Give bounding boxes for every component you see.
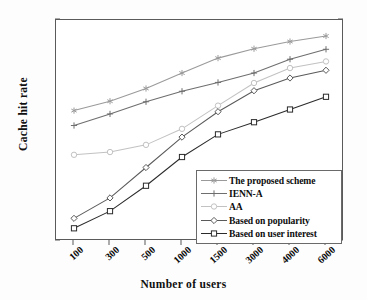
data-point-diamond bbox=[211, 217, 217, 223]
data-point-square bbox=[107, 209, 112, 214]
data-point-plus bbox=[179, 88, 185, 94]
data-point-diamond bbox=[323, 67, 329, 73]
data-point-circle bbox=[251, 80, 256, 85]
data-point-diamond bbox=[251, 88, 257, 94]
legend-label: The proposed scheme bbox=[229, 175, 315, 186]
x-axis-tick-label: 500 bbox=[139, 244, 158, 262]
data-point-plus bbox=[71, 122, 77, 128]
legend-item-3[interactable]: Based on popularity bbox=[199, 214, 338, 227]
series-1 bbox=[71, 46, 329, 128]
x-axis-tick-label: 1000 bbox=[171, 244, 193, 266]
data-point-square bbox=[211, 231, 216, 236]
data-point-circle bbox=[107, 149, 112, 154]
data-point-plus bbox=[215, 79, 221, 85]
data-point-asterisk bbox=[179, 70, 184, 76]
data-point-asterisk bbox=[143, 85, 148, 91]
data-point-circle bbox=[287, 65, 292, 70]
data-point-square bbox=[287, 107, 292, 112]
data-point-square bbox=[143, 183, 148, 188]
data-point-square bbox=[179, 154, 184, 159]
legend-item-1[interactable]: IENN-A bbox=[199, 187, 338, 200]
data-point-plus bbox=[251, 70, 257, 76]
legend-symbol-asterisk-icon bbox=[199, 174, 229, 187]
legend-item-0[interactable]: The proposed scheme bbox=[199, 174, 338, 187]
legend-item-4[interactable]: Based on user interest bbox=[199, 227, 338, 240]
x-axis-tick-label: 1500 bbox=[207, 244, 229, 266]
legend-label: IENN-A bbox=[229, 188, 263, 199]
legend-item-2[interactable]: AA bbox=[199, 200, 338, 213]
data-point-diamond bbox=[287, 75, 293, 81]
legend-label: Based on user interest bbox=[229, 228, 317, 239]
x-axis-tick-label: 100 bbox=[67, 244, 86, 262]
legend-label: Based on popularity bbox=[229, 215, 310, 226]
data-point-plus bbox=[211, 191, 217, 197]
x-axis-tick-label: 3000 bbox=[243, 244, 265, 266]
data-point-plus bbox=[107, 111, 113, 117]
legend-symbol-plus-icon bbox=[199, 187, 229, 200]
data-point-square bbox=[71, 226, 76, 231]
data-point-circle bbox=[179, 126, 184, 131]
x-axis-title: Number of users bbox=[0, 278, 367, 290]
data-point-circle bbox=[215, 103, 220, 108]
data-point-square bbox=[215, 132, 220, 137]
series-0 bbox=[71, 33, 328, 114]
y-axis-title: Cache hit rate bbox=[17, 39, 29, 189]
legend-label: AA bbox=[229, 201, 243, 212]
data-point-plus bbox=[287, 56, 293, 62]
data-point-circle bbox=[71, 152, 76, 157]
legend-symbol-circle-icon bbox=[199, 200, 229, 213]
x-axis-tick-label: 300 bbox=[103, 244, 122, 262]
legend-symbol-diamond-icon bbox=[199, 214, 229, 227]
data-point-diamond bbox=[71, 215, 77, 221]
data-point-circle bbox=[323, 59, 328, 64]
data-point-circle bbox=[211, 204, 216, 209]
data-point-plus bbox=[323, 46, 329, 52]
data-point-square bbox=[323, 94, 328, 99]
data-point-circle bbox=[143, 142, 148, 147]
chart-figure: Cache hit rate Number of users 0.60.650.… bbox=[0, 0, 367, 300]
x-axis-tick-label: 4000 bbox=[279, 244, 301, 266]
legend-symbol-square-icon bbox=[199, 227, 229, 240]
series-line bbox=[74, 36, 326, 111]
data-point-square bbox=[251, 120, 256, 125]
chart-legend: The proposed schemeIENN-AAABased on popu… bbox=[196, 170, 342, 244]
data-point-plus bbox=[143, 99, 149, 105]
x-axis-tick-label: 6000 bbox=[315, 244, 337, 266]
